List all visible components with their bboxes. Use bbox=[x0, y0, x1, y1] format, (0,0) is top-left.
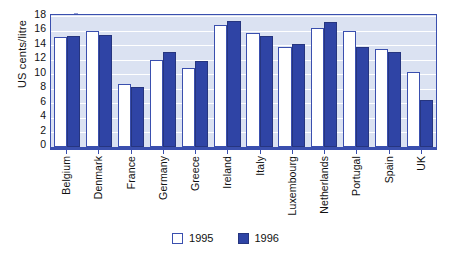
x-tick-mark bbox=[389, 150, 390, 154]
x-tick-mark bbox=[163, 150, 164, 154]
x-axis-category: Luxembourg bbox=[276, 150, 308, 222]
x-tick-mark bbox=[292, 150, 293, 154]
x-tick-label: Belgium bbox=[60, 156, 72, 195]
x-tick-label: Germany bbox=[157, 156, 169, 200]
legend-item: 1995 bbox=[172, 232, 213, 244]
bar-1995 bbox=[246, 33, 259, 147]
x-tick-label: Spain bbox=[383, 156, 395, 183]
x-tick-label: Italy bbox=[254, 156, 266, 176]
x-tick-mark bbox=[421, 150, 422, 154]
x-axis-category: Germany bbox=[147, 150, 179, 222]
bar-group bbox=[340, 15, 372, 147]
bar-group bbox=[404, 15, 436, 147]
x-tick-label: Greece bbox=[189, 156, 201, 191]
y-tick-label: 8 bbox=[40, 81, 46, 92]
x-tick-label: UK bbox=[415, 156, 427, 171]
bar-1995 bbox=[118, 84, 131, 147]
legend-label: 1996 bbox=[255, 232, 279, 244]
bar-1996 bbox=[356, 47, 369, 147]
bar-1996 bbox=[163, 52, 176, 147]
bar-group bbox=[276, 15, 308, 147]
x-tick-label: Netherlands bbox=[318, 156, 330, 214]
bar-group bbox=[115, 15, 147, 147]
bar-groups bbox=[51, 15, 436, 147]
bar-1996 bbox=[227, 21, 240, 147]
bar-1995 bbox=[375, 49, 388, 147]
bar-1996 bbox=[388, 52, 401, 147]
bar-1995 bbox=[150, 60, 163, 147]
bar-group bbox=[179, 15, 211, 147]
y-tick-label: 10 bbox=[34, 67, 46, 78]
bar-group bbox=[308, 15, 340, 147]
bar-group bbox=[51, 15, 83, 147]
x-axis-category: Spain bbox=[373, 150, 405, 222]
x-tick-mark bbox=[131, 150, 132, 154]
y-tick-label: 14 bbox=[34, 38, 46, 49]
y-tick-label: 0 bbox=[40, 139, 46, 150]
x-tick-mark bbox=[260, 150, 261, 154]
bar-group bbox=[83, 15, 115, 147]
x-axis-category: France bbox=[115, 150, 147, 222]
x-tick-mark bbox=[66, 150, 67, 154]
x-axis-category: Italy bbox=[244, 150, 276, 222]
x-tick-mark bbox=[98, 150, 99, 154]
x-tick-mark bbox=[356, 150, 357, 154]
x-tick-mark bbox=[227, 150, 228, 154]
x-tick-label: Luxembourg bbox=[286, 156, 298, 215]
bar-1996 bbox=[260, 36, 273, 147]
bar-chart-figure: US cents/litre 024681012141618 BelgiumDe… bbox=[0, 0, 451, 267]
x-axis-category: Greece bbox=[179, 150, 211, 222]
chart-legend: 19951996 bbox=[0, 232, 451, 244]
bar-1995 bbox=[343, 31, 356, 147]
x-tick-label: Denmark bbox=[92, 156, 104, 199]
y-tick-label: 6 bbox=[40, 95, 46, 106]
x-tick-mark bbox=[195, 150, 196, 154]
legend-swatch-1996 bbox=[238, 233, 249, 244]
bar-group bbox=[372, 15, 404, 147]
x-axis-category: Belgium bbox=[50, 150, 82, 222]
bar-group bbox=[211, 15, 243, 147]
bar-group bbox=[147, 15, 179, 147]
x-axis-category: Ireland bbox=[211, 150, 243, 222]
bar-1995 bbox=[407, 72, 420, 147]
bar-1995 bbox=[54, 37, 67, 147]
x-tick-label: France bbox=[125, 156, 137, 189]
x-axis-category: Netherlands bbox=[308, 150, 340, 222]
bar-1996 bbox=[99, 35, 112, 147]
bar-1996 bbox=[131, 87, 144, 147]
bar-1995 bbox=[278, 47, 291, 147]
y-axis-tick-labels: 024681012141618 bbox=[26, 10, 46, 150]
bar-1995 bbox=[311, 28, 324, 147]
y-tick-label: 4 bbox=[40, 110, 46, 121]
x-tick-mark bbox=[324, 150, 325, 154]
legend-label: 1995 bbox=[189, 232, 213, 244]
bar-group bbox=[243, 15, 275, 147]
x-axis-tick-labels: BelgiumDenmarkFranceGermanyGreeceIreland… bbox=[50, 150, 437, 222]
y-tick-label: 18 bbox=[34, 9, 46, 20]
bar-1995 bbox=[182, 68, 195, 147]
x-axis-category: UK bbox=[405, 150, 437, 222]
bar-1996 bbox=[67, 36, 80, 147]
x-tick-label: Ireland bbox=[221, 156, 233, 189]
bar-1996 bbox=[420, 100, 433, 147]
plot-area bbox=[50, 14, 437, 148]
bar-1996 bbox=[324, 22, 337, 147]
bar-1995 bbox=[214, 25, 227, 147]
y-tick-label: 2 bbox=[40, 124, 46, 135]
legend-swatch-1995 bbox=[172, 233, 183, 244]
y-tick-label: 16 bbox=[34, 23, 46, 34]
legend-item: 1996 bbox=[238, 232, 279, 244]
bar-1996 bbox=[195, 61, 208, 147]
bar-1995 bbox=[86, 31, 99, 147]
x-axis-category: Denmark bbox=[82, 150, 114, 222]
x-axis-category: Portugal bbox=[340, 150, 372, 222]
bar-1996 bbox=[292, 44, 305, 147]
x-tick-label: Portugal bbox=[350, 156, 362, 196]
y-tick-label: 12 bbox=[34, 52, 46, 63]
